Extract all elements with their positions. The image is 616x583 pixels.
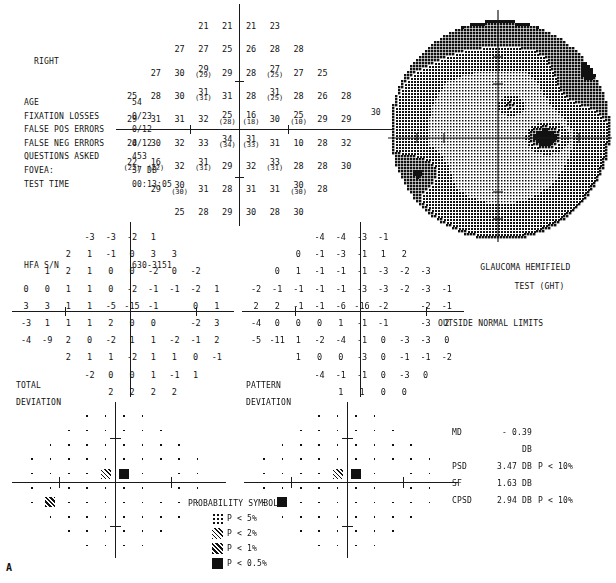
threshold-cell: 29 [144, 185, 168, 194]
total-deviation-plot-dot [178, 444, 180, 446]
total-deviation-plot-dot [178, 473, 180, 475]
total-deviation-plot-dot [142, 516, 144, 518]
total-deviation-cell: 0 [164, 266, 184, 276]
pattern-deviation-cell: -2 [246, 284, 266, 294]
threshold-cell: 30 [239, 208, 263, 217]
total-deviation-cell: 1 [186, 370, 206, 380]
pattern-deviation-plot-dot [318, 545, 320, 547]
threshold-axis-tick [235, 81, 244, 82]
threshold-numeric-grid: 21212123272725262828273029(29)292827(25)… [120, 8, 390, 223]
pattern-deviation-plot-dot [355, 530, 357, 532]
pattern-deviation-cell: -1 [373, 318, 393, 328]
threshold-cell: 27 [287, 69, 311, 78]
pattern-deviation-cell: -1 [331, 370, 351, 380]
pattern-deviation-plot-dot [318, 487, 320, 489]
total-deviation-cell: 3 [207, 318, 227, 328]
pattern-deviation-plot-dot [410, 516, 412, 518]
total-deviation-plot-dot [142, 530, 144, 532]
threshold-cell: 25(28) [215, 111, 239, 126]
pattern-deviation-plot-dot [300, 530, 302, 532]
global-index-probability: P < 10% [538, 492, 590, 509]
global-index-probability [538, 475, 590, 492]
total-deviation-cell: 1 [80, 249, 100, 259]
total-deviation-axis-tick [196, 307, 197, 316]
threshold-cell: 23 [263, 22, 287, 31]
pattern-deviation-plot-dot [337, 545, 339, 547]
total-deviation-cell: 3 [164, 249, 184, 259]
total-deviation-plot-dot [86, 430, 88, 432]
legend-text: P < 5% [227, 511, 257, 526]
total-deviation-plot-dot [68, 516, 70, 518]
threshold-value: 30 [168, 69, 192, 78]
pattern-deviation-plot-dot [318, 458, 320, 460]
threshold-cell: 28 [215, 185, 239, 194]
pattern-deviation-plot-dot [429, 502, 431, 504]
threshold-value: 28 [239, 92, 263, 101]
pattern-deviation-cell: -3 [416, 318, 436, 328]
pattern-deviation-cell: 1 [288, 352, 308, 362]
threshold-value: 31 [263, 185, 287, 194]
threshold-cell: 31(31) [191, 158, 215, 173]
total-deviation-cell: -1 [143, 284, 163, 294]
threshold-cell: 28 [310, 162, 334, 171]
pattern-deviation-cell: -4 [310, 370, 330, 380]
total-deviation-cell: 0 [80, 335, 100, 345]
total-deviation-plot-dot [105, 530, 107, 532]
pattern-deviation-plot-dot [392, 502, 394, 504]
threshold-cell: 27 [144, 69, 168, 78]
total-deviation-plot-dot [50, 487, 52, 489]
total-deviation-cell: -5 [101, 301, 121, 311]
total-deviation-plot-dot [86, 444, 88, 446]
pattern-deviation-cell: -2 [394, 284, 414, 294]
total-deviation-plot-dot [197, 487, 199, 489]
total-deviation-cell: -9 [37, 335, 57, 345]
total-deviation-plot-dot [160, 530, 162, 532]
total-deviation-plot-dot [142, 458, 144, 460]
threshold-cell: 16(18) [239, 111, 263, 126]
threshold-cell: 30 [168, 92, 192, 101]
threshold-cell: 31 [168, 115, 192, 124]
total-deviation-cell: 1 [37, 266, 57, 276]
pattern-deviation-plot-dot [318, 415, 320, 417]
pattern-deviation-cell: -2 [394, 266, 414, 276]
total-deviation-cell: -2 [122, 352, 142, 362]
threshold-value: 24 [120, 139, 144, 148]
total-deviation-plot-dot [178, 502, 180, 504]
header-row-label: FIXATION LOSSES [24, 110, 132, 124]
threshold-retest-value: (34) [215, 142, 239, 149]
threshold-value: 25 [215, 45, 239, 54]
threshold-cell: 28 [310, 185, 334, 194]
pattern-deviation-cell: 0 [288, 249, 308, 259]
threshold-value: 28 [334, 92, 358, 101]
pattern-deviation-label-1: PATTERN [246, 381, 281, 390]
pattern-deviation-cell: 0 [288, 318, 308, 328]
total-deviation-plot-dot [197, 458, 199, 460]
pattern-deviation-horizontal-axis [242, 311, 464, 312]
threshold-cell: 21 [215, 22, 239, 31]
pattern-deviation-cell: 1 [352, 387, 372, 397]
threshold-cell: 31 [144, 115, 168, 124]
pattern-deviation-plot-dot [374, 502, 376, 504]
total-deviation-plot-dot [86, 516, 88, 518]
threshold-value: 30 [263, 115, 287, 124]
pattern-deviation-plot-dot [429, 473, 431, 475]
total-deviation-plot-dot [123, 530, 125, 532]
total-deviation-plot-dot [123, 444, 125, 446]
total-deviation-plot-dot [178, 516, 180, 518]
total-deviation-plot-axis-tick [59, 477, 60, 488]
total-deviation-plot-dot [123, 415, 125, 417]
threshold-cell: 25 [120, 92, 144, 101]
total-deviation-plot-dot [31, 487, 33, 489]
threshold-value: 28 [310, 162, 334, 171]
total-deviation-cell: 2 [101, 318, 121, 328]
pattern-deviation-plot-dot [355, 444, 357, 446]
total-deviation-plot-vertical-axis [115, 402, 116, 558]
threshold-cell: 30 [287, 208, 311, 217]
total-deviation-plot-dot [123, 458, 125, 460]
pattern-deviation-cell: 0 [373, 335, 393, 345]
legend-title: PROBABILITY SYMBOLS [188, 496, 283, 511]
total-deviation-plot-dot [68, 444, 70, 446]
threshold-value: 29 [215, 69, 239, 78]
legend-text: P < 2% [227, 526, 257, 541]
total-deviation-cell: -4 [16, 335, 36, 345]
